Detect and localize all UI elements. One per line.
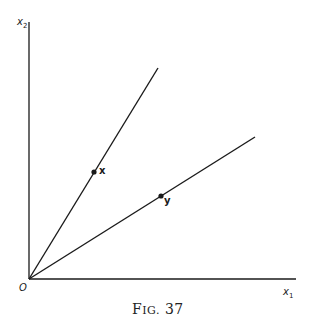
point-x-label: x bbox=[99, 166, 105, 176]
origin-label: O bbox=[19, 283, 27, 293]
caption-prefix: F bbox=[132, 301, 142, 317]
x1-label-sub: 1 bbox=[289, 292, 293, 300]
point-y-label: y bbox=[164, 196, 171, 206]
point-y bbox=[158, 193, 163, 198]
x1-axis-label: x1 bbox=[283, 287, 293, 300]
x2-label-sub: 2 bbox=[23, 22, 27, 30]
x2-axis-label: x2 bbox=[17, 17, 27, 30]
ray-y bbox=[29, 137, 255, 279]
figure-caption: FIG. 37 bbox=[132, 301, 184, 317]
vector-diagram bbox=[0, 0, 314, 330]
caption-number: 37 bbox=[165, 301, 184, 317]
caption-smallcaps: IG. bbox=[142, 304, 160, 317]
point-x bbox=[91, 169, 96, 174]
